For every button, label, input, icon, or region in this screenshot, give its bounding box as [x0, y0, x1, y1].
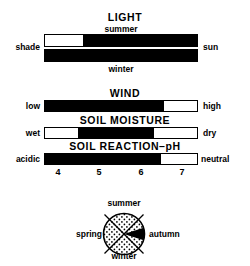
bar-soil-reaction-ph [44, 153, 198, 165]
bar-caption-winter: winter [44, 64, 198, 74]
bar-segment-filled [45, 50, 197, 61]
season-wheel-diagram [93, 203, 155, 265]
bar-light-summer [44, 34, 198, 47]
bar-segment-open [45, 35, 83, 46]
bar-segment-open [164, 101, 197, 111]
panel-title-wind: WIND [0, 88, 250, 99]
ph-tick-label-7: 7 [170, 167, 194, 177]
axis-end-label-wet: wet [0, 128, 40, 138]
bar-segment-open [154, 128, 197, 138]
axis-end-label-acidic: acidic [0, 154, 40, 164]
panel-title-soil-reaction-ph: SOIL REACTION–pH [0, 141, 250, 152]
axis-end-label-low: low [0, 101, 40, 111]
bar-segment-open [161, 154, 197, 164]
axis-end-label-dry: dry [203, 128, 250, 138]
bar-soil-moisture [44, 127, 198, 139]
ph-tick-label-4: 4 [46, 167, 70, 177]
axis-end-label-shade: shade [0, 42, 40, 52]
bar-segment-filled [45, 154, 161, 164]
bar-segment-filled [78, 128, 154, 138]
ecological-indicator-figure: LIGHT summer winter shade sun WIND low h… [0, 0, 250, 266]
panel-title-light: LIGHT [0, 12, 250, 23]
bar-segment-open [45, 128, 78, 138]
bar-caption-summer: summer [44, 24, 198, 34]
season-label-autumn: autumn [149, 229, 209, 239]
bar-light-winter [44, 49, 198, 62]
ph-tick-label-6: 6 [129, 167, 153, 177]
ph-tick-label-5: 5 [87, 167, 111, 177]
panel-title-soil-moisture: SOIL MOISTURE [0, 115, 250, 126]
bar-wind [44, 100, 198, 112]
axis-end-label-neutral: neutral [201, 154, 250, 164]
bar-segment-filled [83, 35, 197, 46]
axis-end-label-high: high [203, 101, 250, 111]
axis-end-label-sun: sun [203, 42, 250, 52]
bar-segment-filled [45, 101, 164, 111]
